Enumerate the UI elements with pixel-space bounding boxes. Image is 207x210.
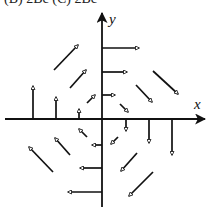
vector-arrow-up-left bbox=[29, 147, 53, 172]
vector-arrow-up-right bbox=[70, 70, 86, 88]
vector-arrow-up-right bbox=[87, 95, 95, 103]
vector-arrow-down-left bbox=[129, 172, 153, 196]
vector-arrow-down-right bbox=[136, 85, 152, 102]
vector-arrow-up-right bbox=[54, 45, 78, 70]
vector-arrow-up-left bbox=[79, 129, 87, 137]
vector-arrow-down-left bbox=[121, 153, 137, 171]
vector-arrows bbox=[29, 45, 178, 196]
vector-field-diagram: x y bbox=[0, 0, 207, 210]
axes: x y bbox=[5, 11, 205, 207]
vector-arrow-down-right bbox=[153, 71, 178, 94]
vector-arrow-down-right bbox=[120, 104, 128, 112]
x-axis-label: x bbox=[193, 96, 201, 112]
vector-arrow-down-left bbox=[111, 137, 118, 144]
y-axis-label: y bbox=[107, 11, 116, 27]
vector-arrow-up-left bbox=[55, 138, 70, 155]
